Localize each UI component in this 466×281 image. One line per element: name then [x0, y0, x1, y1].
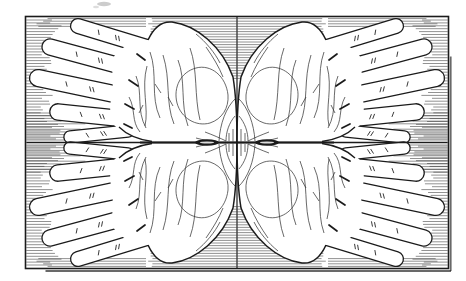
hand-bottom-left	[26, 143, 237, 267]
wrist-crease-lens-core	[260, 142, 274, 144]
hands-mirror-engraving	[0, 0, 466, 281]
ink-smudge	[97, 2, 111, 6]
paper-smudge	[93, 2, 111, 8]
hand-top-left	[26, 19, 237, 143]
engraving-figure	[0, 0, 466, 281]
ink-smudge	[93, 6, 99, 8]
hand-bottom-right	[237, 143, 448, 267]
wrist-crease-lens-core	[200, 142, 214, 144]
hand-top-right	[237, 19, 448, 143]
